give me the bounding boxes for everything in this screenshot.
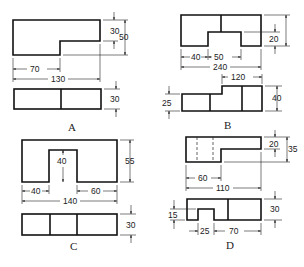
option-c-top-view: 30: [22, 205, 136, 243]
dim-b-120: 120: [231, 72, 245, 82]
dim-d-60: 60: [198, 173, 208, 183]
dim-d-25: 25: [200, 226, 210, 236]
option-c-label: C: [70, 240, 77, 252]
dim-b-40: 40: [191, 52, 201, 62]
dim-a-70: 70: [30, 64, 40, 74]
option-d-front-view: 20 35 60 110: [186, 130, 298, 193]
option-d: 20 35 60 110 15 30: [168, 130, 298, 251]
dim-b-20: 20: [269, 34, 279, 44]
option-b-label: B: [224, 119, 231, 131]
orthographic-views-diagram: 30 50 70 130 30 A: [0, 0, 304, 267]
dim-b-25: 25: [162, 98, 172, 108]
dim-b-50: 50: [214, 52, 224, 62]
dim-c-40: 40: [31, 186, 41, 196]
dim-d-70: 70: [229, 226, 239, 236]
dim-b-240: 240: [213, 62, 227, 72]
dim-d-110: 110: [216, 183, 230, 193]
dim-a-depth-30: 30: [110, 94, 120, 104]
dim-a-130: 130: [51, 74, 65, 84]
dim-a-50: 50: [119, 32, 129, 42]
dim-c-55: 55: [125, 156, 135, 166]
option-b: 20 40 50 240 120: [162, 15, 290, 131]
dim-b-40-depth: 40: [272, 93, 282, 103]
dim-d-35: 35: [288, 144, 298, 154]
dim-c-40-notch: 40: [57, 156, 67, 166]
dim-d-15: 15: [168, 210, 178, 220]
option-a-front-view: 30 50 70 130: [13, 12, 129, 84]
option-d-top-view: 15 30 25 70: [168, 191, 282, 236]
option-d-label: D: [226, 239, 234, 251]
option-c: 55 40 40 60 140 30: [22, 140, 136, 252]
dim-c-60: 60: [91, 186, 101, 196]
option-a: 30 50 70 130 30 A: [13, 12, 129, 133]
dim-d-30: 30: [270, 204, 280, 214]
option-a-top-view: 30: [14, 81, 120, 117]
option-b-top-view: 120 25 40: [162, 72, 282, 119]
dim-d-20: 20: [269, 139, 279, 149]
dim-c-140: 140: [63, 196, 77, 206]
option-c-front-view: 55 40 40 60 140: [22, 140, 135, 206]
dim-c-30: 30: [126, 220, 136, 230]
option-a-label: A: [68, 121, 76, 133]
option-b-front-view: 20 40 50 240: [181, 15, 290, 72]
